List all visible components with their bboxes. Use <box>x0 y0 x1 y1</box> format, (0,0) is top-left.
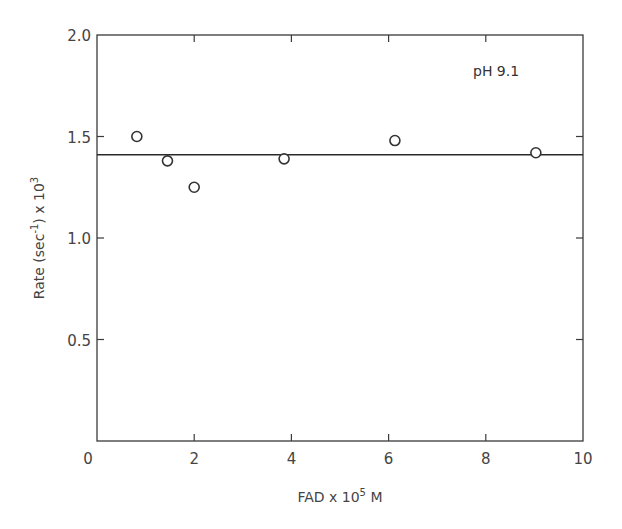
y-tick-label: 1.0 <box>67 230 91 248</box>
data-point <box>132 132 142 142</box>
y-tick-label: 2.0 <box>67 27 91 45</box>
data-point <box>189 182 199 192</box>
x-axis-title: FAD x 105 M <box>297 487 382 505</box>
y-axis-title: Rate (sec-1) x 103 <box>29 177 47 299</box>
x-tick-label: 10 <box>573 450 592 468</box>
data-points <box>132 132 541 193</box>
data-point <box>279 154 289 164</box>
x-tick-label: 2 <box>189 450 199 468</box>
data-point <box>162 156 172 166</box>
data-point <box>390 136 400 146</box>
y-tick-label: 0.5 <box>67 332 91 350</box>
scatter-chart: 02468100.51.01.52.0 pH 9.1 FAD x 105 M R… <box>0 0 622 529</box>
ph-annotation: pH 9.1 <box>473 63 519 79</box>
x-tick-label: 0 <box>83 450 93 468</box>
x-tick-label: 6 <box>384 450 394 468</box>
data-point <box>531 148 541 158</box>
x-tick-label: 8 <box>481 450 491 468</box>
plot-frame <box>97 35 583 441</box>
plot-border <box>97 35 583 441</box>
axis-ticks: 02468100.51.01.52.0 <box>67 27 592 468</box>
x-tick-label: 4 <box>287 450 297 468</box>
y-tick-label: 1.5 <box>67 129 91 147</box>
